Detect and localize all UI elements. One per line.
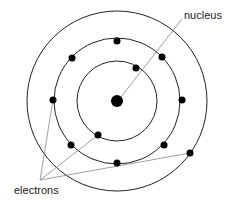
electron: [179, 97, 186, 104]
electrons-leader-line-1: [40, 100, 53, 180]
atom-diagram: nucleus electrons: [0, 0, 226, 204]
nucleus-label: nucleus: [184, 9, 222, 21]
electron: [68, 142, 75, 149]
electrons-label: electrons: [14, 184, 59, 196]
electron: [69, 55, 76, 62]
electron: [159, 54, 166, 61]
electron: [187, 150, 194, 157]
electron: [114, 38, 121, 45]
electron: [133, 65, 140, 72]
electron: [161, 142, 168, 149]
nucleus: [111, 95, 123, 107]
nucleus-leader-line: [121, 19, 182, 97]
electron: [95, 132, 102, 139]
electron: [50, 97, 57, 104]
electron: [114, 160, 121, 167]
